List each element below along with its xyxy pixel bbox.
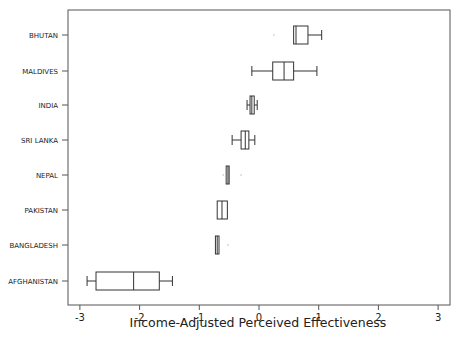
- box-india: [247, 96, 257, 114]
- box-afghanistan: [87, 272, 172, 290]
- outlier-point: [273, 34, 275, 36]
- box-bangladesh: [215, 236, 228, 254]
- category-label: MALDIVES: [22, 68, 58, 76]
- y-axis-labels: BHUTANMALDIVESINDIASRI LANKANEPALPAKISTA…: [8, 32, 68, 286]
- category-label: INDIA: [38, 102, 58, 110]
- plot-frame: [68, 10, 450, 305]
- box-sri-lanka: [232, 131, 255, 149]
- x-axis-label: Income-Adjusted Perceived Effectiveness: [130, 315, 387, 330]
- category-label: NEPAL: [36, 172, 58, 180]
- outlier-point: [240, 174, 242, 176]
- x-tick-label: 3: [435, 312, 441, 323]
- outlier-point: [227, 244, 229, 246]
- box-pakistan: [217, 201, 227, 219]
- category-label: AFGHANISTAN: [8, 278, 58, 286]
- boxes: [87, 26, 322, 290]
- x-tick-label: -3: [75, 312, 85, 323]
- box-bhutan: [273, 26, 322, 44]
- category-label: BANGLADESH: [9, 242, 58, 250]
- boxplot-chart: BHUTANMALDIVESINDIASRI LANKANEPALPAKISTA…: [0, 0, 461, 346]
- category-label: PAKISTAN: [25, 207, 58, 215]
- category-label: BHUTAN: [29, 32, 58, 40]
- outlier-point: [222, 174, 224, 176]
- category-label: SRI LANKA: [21, 137, 58, 145]
- box-maldives: [252, 62, 317, 80]
- box-nepal: [222, 166, 242, 184]
